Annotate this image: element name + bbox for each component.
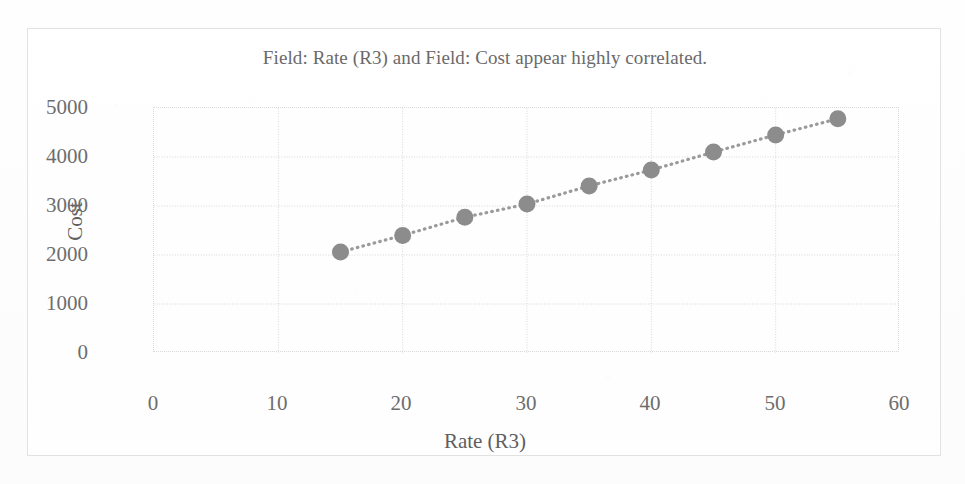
y-tick-label: 2000 bbox=[16, 242, 88, 267]
x-tick-label: 20 bbox=[371, 391, 431, 416]
y-tick-label: 1000 bbox=[16, 291, 88, 316]
plot-area bbox=[153, 107, 899, 352]
y-tick-label: 0 bbox=[16, 340, 88, 365]
data-point-marker bbox=[705, 144, 722, 161]
data-point-marker bbox=[829, 110, 846, 127]
data-point-marker bbox=[519, 196, 536, 213]
x-tick-label: 60 bbox=[869, 391, 929, 416]
data-point-marker bbox=[394, 227, 411, 244]
y-tick-label: 3000 bbox=[16, 193, 88, 218]
data-point-marker bbox=[581, 177, 598, 194]
data-point-marker bbox=[643, 161, 660, 178]
grid-lines bbox=[154, 108, 900, 353]
chart-screenshot: Field: Rate (R3) and Field: Cost appear … bbox=[0, 0, 965, 484]
x-tick-label: 40 bbox=[620, 391, 680, 416]
y-tick-label: 5000 bbox=[16, 95, 88, 120]
data-point-marker bbox=[456, 209, 473, 226]
x-axis-title: Rate (R3) bbox=[28, 429, 942, 454]
y-tick-label: 4000 bbox=[16, 144, 88, 169]
plot-svg bbox=[154, 108, 900, 353]
x-tick-label: 50 bbox=[745, 391, 805, 416]
x-tick-label: 30 bbox=[496, 391, 556, 416]
data-point-marker bbox=[767, 126, 784, 143]
series-markers bbox=[332, 110, 846, 260]
data-point-marker bbox=[332, 244, 349, 261]
x-tick-label: 0 bbox=[123, 391, 183, 416]
x-tick-label: 10 bbox=[247, 391, 307, 416]
chart-frame: Field: Rate (R3) and Field: Cost appear … bbox=[27, 28, 941, 456]
chart-title: Field: Rate (R3) and Field: Cost appear … bbox=[28, 47, 942, 69]
